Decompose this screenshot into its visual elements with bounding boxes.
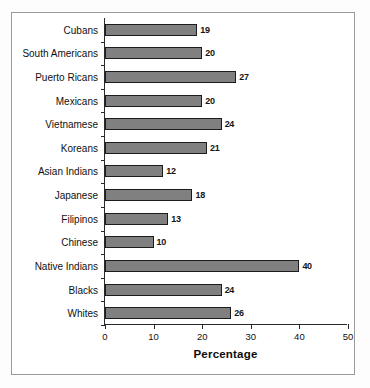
x-axis-tick-label: 30 <box>246 331 257 342</box>
bar-track: 13 <box>105 213 347 225</box>
bar <box>105 189 192 201</box>
category-label: Cubans <box>64 24 98 35</box>
bar-track: 21 <box>105 142 347 154</box>
bar-row: Filipinos13 <box>105 207 347 231</box>
bar-track: 26 <box>105 307 347 319</box>
bar <box>105 95 202 107</box>
bar-row: Vietnamese24 <box>105 112 347 136</box>
bar-value-label: 26 <box>234 308 243 318</box>
bar <box>105 165 163 177</box>
bar-row: Blacks24 <box>105 278 347 302</box>
category-label: South Americans <box>22 48 98 59</box>
bar <box>105 118 222 130</box>
bar-row: Chinese10 <box>105 231 347 255</box>
bar-chart-figure: Cubans19South Americans20Puerto Ricans27… <box>0 0 370 388</box>
x-axis-title: Percentage <box>104 348 347 360</box>
x-axis-tick-label: 50 <box>343 331 354 342</box>
category-label: Koreans <box>61 142 98 153</box>
bar-track: 24 <box>105 284 347 296</box>
bar-value-label: 24 <box>225 119 234 129</box>
bar-track: 20 <box>105 95 347 107</box>
bar <box>105 47 202 59</box>
bar <box>105 24 197 36</box>
category-label: Japanese <box>55 190 98 201</box>
bar-value-label: 18 <box>195 190 204 200</box>
bar-value-label: 24 <box>225 285 234 295</box>
category-label: Native Indians <box>35 260 98 271</box>
x-axis-tick-label: 10 <box>148 331 159 342</box>
plot-area: Cubans19South Americans20Puerto Ricans27… <box>104 18 347 325</box>
bar <box>105 284 222 296</box>
bar-track: 40 <box>105 260 347 272</box>
x-axis-tick <box>348 324 349 329</box>
category-label: Whites <box>67 308 98 319</box>
bar-value-label: 13 <box>171 214 180 224</box>
bar-track: 24 <box>105 118 347 130</box>
bar-value-label: 27 <box>239 72 248 82</box>
bar-track: 18 <box>105 189 347 201</box>
x-axis-tick <box>251 324 252 329</box>
bar-row: South Americans20 <box>105 42 347 66</box>
bar-row: Japanese18 <box>105 183 347 207</box>
bar <box>105 142 207 154</box>
bar-track: 27 <box>105 71 347 83</box>
bar-track: 19 <box>105 24 347 36</box>
x-axis-tick <box>154 324 155 329</box>
bar-track: 20 <box>105 47 347 59</box>
category-label: Filipinos <box>61 213 98 224</box>
x-axis-tick <box>105 324 106 329</box>
bar-row: Whites26 <box>105 301 347 325</box>
bar-value-label: 19 <box>200 25 209 35</box>
bar-value-label: 10 <box>157 237 166 247</box>
x-axis-tick-label: 0 <box>102 331 107 342</box>
x-axis-tick <box>202 324 203 329</box>
bar-row: Cubans19 <box>105 18 347 42</box>
bar-row: Native Indians40 <box>105 254 347 278</box>
bar-row: Mexicans20 <box>105 89 347 113</box>
bar-value-label: 21 <box>210 143 219 153</box>
bar-value-label: 20 <box>205 96 214 106</box>
x-axis-tick <box>299 324 300 329</box>
category-label: Chinese <box>61 237 98 248</box>
bar-row: Asian Indians12 <box>105 160 347 184</box>
bar <box>105 213 168 225</box>
category-label: Vietnamese <box>45 119 98 130</box>
bar <box>105 260 299 272</box>
bar-value-label: 40 <box>302 261 311 271</box>
bar <box>105 236 154 248</box>
bar-value-label: 12 <box>166 166 175 176</box>
bar-track: 12 <box>105 165 347 177</box>
category-label: Asian Indians <box>38 166 98 177</box>
bar-row: Puerto Ricans27 <box>105 65 347 89</box>
x-axis-tick-label: 40 <box>294 331 305 342</box>
bar-value-label: 20 <box>205 48 214 58</box>
category-label: Puerto Ricans <box>35 72 98 83</box>
bar <box>105 71 236 83</box>
bar-row: Koreans21 <box>105 136 347 160</box>
bar <box>105 307 231 319</box>
category-label: Mexicans <box>56 95 98 106</box>
category-label: Blacks <box>69 284 98 295</box>
bar-track: 10 <box>105 236 347 248</box>
x-axis-tick-label: 20 <box>197 331 208 342</box>
